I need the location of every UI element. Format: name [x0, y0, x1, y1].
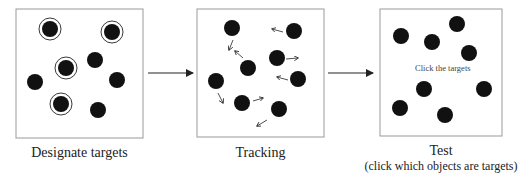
- caption-test-detail: (click which objects are targets): [356, 159, 526, 174]
- panel-tracking: [197, 9, 324, 137]
- test-instruction-text: Click the targets: [415, 63, 471, 73]
- caption-test: Test: [380, 143, 502, 159]
- caption-designate-targets: Designate targets: [16, 145, 143, 161]
- caption-tracking: Tracking: [197, 145, 324, 161]
- panel-designate-targets: [16, 9, 143, 138]
